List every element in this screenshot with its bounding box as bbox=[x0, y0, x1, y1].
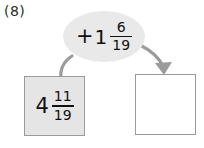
start-numerator: 11 bbox=[52, 89, 74, 104]
input-curve bbox=[61, 56, 72, 78]
operation-denominator: 19 bbox=[110, 38, 132, 53]
operation-numerator: 6 bbox=[115, 20, 128, 35]
start-denominator: 19 bbox=[52, 108, 74, 123]
start-whole-number: 4 bbox=[35, 96, 48, 117]
start-value-box: 4 11 19 bbox=[24, 76, 85, 136]
start-mixed-number: 4 11 19 bbox=[35, 89, 73, 123]
worksheet-problem-item: (8) + 1 6 19 4 11 19 bbox=[0, 0, 204, 148]
operation-mixed-number: + 1 6 19 bbox=[76, 20, 132, 54]
operation-whole-number: 1 bbox=[95, 27, 108, 47]
operation-sign: + bbox=[76, 26, 94, 47]
operation-bubble: + 1 6 19 bbox=[63, 11, 145, 62]
operation-fraction: 6 19 bbox=[110, 20, 132, 54]
answer-box[interactable] bbox=[135, 74, 196, 135]
start-fraction: 11 19 bbox=[52, 89, 74, 123]
